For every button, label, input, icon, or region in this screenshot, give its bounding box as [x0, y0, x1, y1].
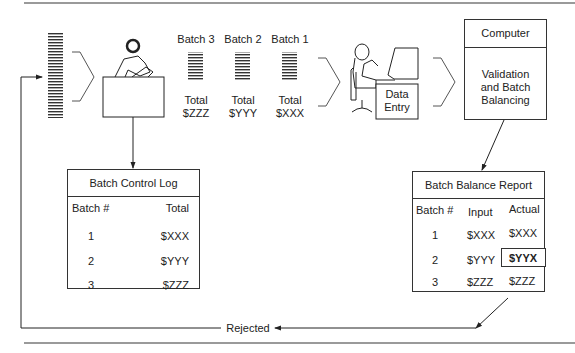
batch-2-label: Batch 2 — [223, 33, 263, 46]
balance-report-row-batch: 3 — [432, 276, 438, 289]
batch-balance-report: Batch Balance Report Batch # Input Actua… — [412, 171, 545, 292]
control-log-row-batch: 1 — [88, 230, 94, 243]
control-log-row-total: $ZZZ — [163, 279, 189, 292]
balance-report-row-actual-mismatch: $YYX — [509, 252, 537, 265]
balance-report-title: Batch Balance Report — [413, 172, 544, 199]
flow-chevron-icon — [433, 58, 455, 106]
computer-line2: and Batch — [465, 81, 546, 94]
batch-3-total-label: Total — [176, 94, 216, 107]
batch-2-total-label: Total — [223, 94, 263, 107]
balance-report-row-input: $ZZZ — [467, 276, 493, 289]
balance-report-row-actual: $XXX — [509, 227, 537, 240]
computer-line3: Balancing — [465, 94, 546, 107]
balance-report-header-batch: Batch # — [416, 204, 453, 217]
balance-report-header-input: Input — [468, 206, 492, 219]
balance-report-row-batch: 1 — [432, 229, 438, 242]
control-log-row-total: $YYY — [161, 255, 189, 268]
control-log-header-total: Total — [166, 202, 189, 215]
control-log-row-batch: 2 — [88, 255, 94, 268]
control-log-title: Batch Control Log — [68, 170, 199, 197]
control-log-header-batch: Batch # — [72, 202, 109, 215]
computer-line1: Validation — [465, 68, 546, 81]
batch-3-total: $ZZZ — [176, 107, 216, 120]
discrepancy-highlight: $YYX — [501, 248, 546, 267]
batch-stack-icon — [235, 52, 250, 81]
control-log-row-batch: 3 — [88, 279, 94, 292]
data-entry-line2: Entry — [377, 101, 417, 114]
document-stack-icon — [48, 33, 63, 118]
batch-2-total: $YYY — [223, 107, 263, 120]
balance-report-header-actual: Actual — [509, 203, 540, 216]
batch-stack-icon — [188, 52, 203, 81]
flow-chevron-icon — [72, 52, 94, 101]
batch-3-label: Batch 3 — [176, 33, 216, 46]
batch-control-log: Batch Control Log Batch # Total 1 $XXX 2… — [67, 169, 200, 289]
balance-report-row-batch: 2 — [432, 254, 438, 267]
batch-1-total: $XXX — [270, 107, 310, 120]
balance-report-row-input: $XXX — [467, 229, 495, 242]
clerk-icon — [103, 40, 164, 117]
control-log-row-total: $XXX — [161, 230, 189, 243]
flow-chevron-icon — [318, 58, 340, 106]
data-entry-line1: Data — [377, 88, 417, 101]
balance-report-row-actual: $ZZZ — [509, 275, 535, 288]
batch-stack-icon — [282, 52, 297, 81]
batch-1-total-label: Total — [270, 94, 310, 107]
batch-1-label: Batch 1 — [270, 33, 310, 46]
balance-report-row-input: $YYY — [467, 254, 495, 267]
computer-title: Computer — [465, 20, 546, 48]
computer-box: Computer Validation and Batch Balancing — [464, 19, 547, 120]
rejected-label: Rejected — [225, 322, 271, 335]
